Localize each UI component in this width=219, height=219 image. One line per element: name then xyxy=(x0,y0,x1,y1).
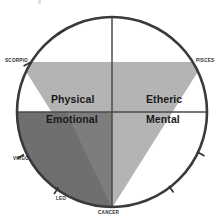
zodiac-label-virgo: VIRGO xyxy=(13,156,29,161)
wheel-graphic xyxy=(0,0,219,219)
zodiac-label-pisces: PISCES xyxy=(196,58,214,63)
quadrant-label-mental: Mental xyxy=(146,113,180,125)
zodiac-label-cancer: CANCER xyxy=(98,210,119,215)
quadrant-label-etheric: Etheric xyxy=(146,93,182,105)
zodiac-quadrant-diagram: Physical Etheric Emotional Mental SCORPI… xyxy=(0,0,219,219)
quadrant-label-physical: Physical xyxy=(51,93,94,105)
zodiac-label-leo: LEO xyxy=(56,196,66,201)
zodiac-label-scorpio: SCORPIO xyxy=(5,58,28,63)
quadrant-label-emotional: Emotional xyxy=(46,113,98,125)
